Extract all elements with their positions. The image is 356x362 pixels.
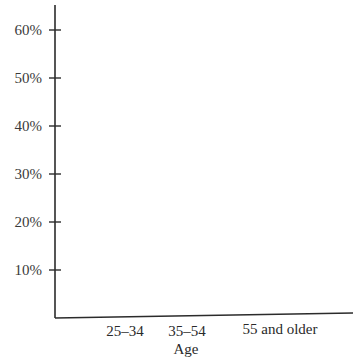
x-category-label: 25–34 (106, 323, 144, 339)
x-category-label: 35–54 (168, 323, 206, 339)
y-tick-label: 20% (15, 214, 43, 230)
y-tick-label: 10% (15, 262, 43, 278)
y-tick-label: 60% (15, 22, 43, 38)
chart-canvas: 10% 20% 30% 40% 50% 60% 25–34 35–54 55 a… (0, 0, 356, 362)
y-tick-label: 50% (15, 70, 43, 86)
x-axis (55, 313, 353, 318)
y-tick-label: 40% (15, 118, 43, 134)
x-category-labels: 25–34 35–54 55 and older (106, 321, 317, 339)
y-tick-label: 30% (15, 166, 43, 182)
x-axis-title: Age (174, 341, 199, 357)
y-tick-labels: 10% 20% 30% 40% 50% 60% (15, 22, 43, 278)
x-category-label: 55 and older (243, 321, 318, 337)
